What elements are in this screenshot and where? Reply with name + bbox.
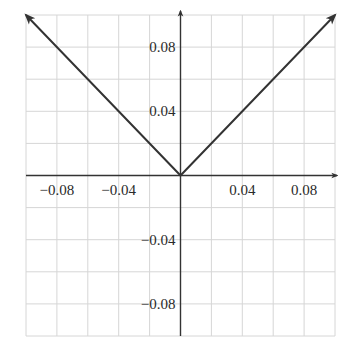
y-tick-label: −0.08 xyxy=(141,296,176,312)
x-tick-labels: −0.08−0.040.040.08 xyxy=(40,182,318,198)
x-tick-label: −0.04 xyxy=(101,182,136,198)
x-tick-label: −0.08 xyxy=(40,182,75,198)
y-tick-label: 0.04 xyxy=(149,103,176,119)
chart-plot: −0.08−0.040.040.08 0.080.04−0.04−0.08 xyxy=(0,0,346,353)
x-tick-label: 0.08 xyxy=(291,182,317,198)
x-tick-label: 0.04 xyxy=(229,182,256,198)
y-tick-label: 0.08 xyxy=(149,39,175,55)
y-tick-label: −0.04 xyxy=(141,232,176,248)
